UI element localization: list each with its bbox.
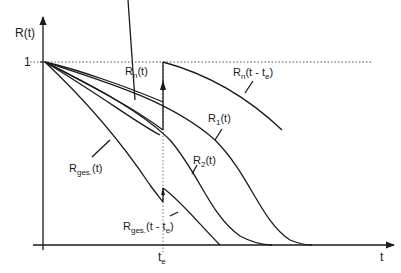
leader-rn-shift [245, 81, 253, 93]
leader-r1 [215, 129, 222, 140]
curve-rges [45, 62, 163, 202]
reliability-diagram: R(t) 1 t te Rn(t) Rn(t - te) R1(t) R2(t)… [0, 0, 401, 273]
label-rn: Rn(t) [125, 66, 148, 77]
label-rn-shift: Rn(t - te) [233, 67, 273, 78]
label-rges: Rges.(t) [69, 163, 102, 174]
curve-r1 [45, 62, 312, 245]
x-axis-label: t [380, 251, 383, 263]
y-tick-one-label: 1 [24, 56, 31, 68]
leader-rges-shift [170, 212, 178, 216]
leader-rges [92, 140, 110, 157]
y-axis-label: R(t) [15, 27, 35, 39]
leader-rn [128, 0, 135, 100]
label-r1: R1(t) [208, 113, 231, 124]
jump-arrow-icon [160, 80, 166, 90]
label-r2: R2(t) [193, 155, 216, 166]
curve-r2 [45, 62, 272, 245]
diagram-graphics [0, 0, 401, 273]
label-rges-shift: Rges.(t - te) [123, 221, 174, 232]
curve-rges-shift [163, 188, 220, 245]
leader-r2 [192, 165, 197, 174]
x-tick-te-label: te [158, 251, 166, 263]
